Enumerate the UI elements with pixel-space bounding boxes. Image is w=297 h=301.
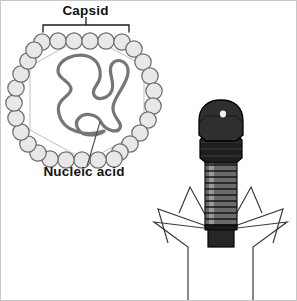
label-nucleic-acid: Nucleic acid (1, 164, 167, 179)
tail-fiber-right-outer (229, 222, 287, 300)
capsid-bracket (43, 17, 129, 32)
virus-diagram-figure: Capsid Nucleic acid (0, 0, 297, 301)
tail-fiber-left-outer (154, 222, 212, 300)
base-plate (205, 225, 237, 247)
nucleic-acid-strand (58, 55, 128, 135)
bacteriophage (154, 100, 287, 300)
head-highlight (220, 111, 226, 118)
capsomere-ring (6, 33, 162, 168)
tail-sheath (205, 159, 237, 227)
phage-head (199, 100, 243, 141)
label-capsid: Capsid (1, 3, 170, 18)
diagram-canvas (1, 1, 296, 300)
icosahedral-virus (6, 17, 162, 168)
